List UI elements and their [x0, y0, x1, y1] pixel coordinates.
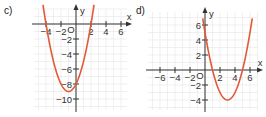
y-axis-label: y [209, 8, 214, 19]
chart-panel-c: −4−2246−2−4−6−8−10xyOc) [4, 4, 132, 112]
y-tick-label: 2 [196, 50, 201, 61]
y-tick-label: −4 [190, 95, 201, 106]
y-axis-arrow-icon [74, 4, 79, 10]
y-tick-label: −2 [61, 34, 72, 45]
panel-label: d) [136, 5, 145, 16]
x-tick-label: 6 [247, 72, 252, 83]
y-tick-label: −10 [56, 94, 72, 105]
x-axis-arrow-icon [257, 68, 263, 73]
x-tick-label: −6 [155, 72, 166, 83]
y-tick-label: −2 [190, 80, 201, 91]
x-tick-label: 4 [232, 72, 237, 83]
y-axis-arrow-icon [203, 7, 208, 13]
y-tick-label: −6 [61, 64, 72, 75]
x-axis-label: x [127, 11, 132, 22]
panel-label: c) [4, 5, 12, 16]
origin-label: O [196, 70, 203, 81]
x-tick-label: −4 [170, 72, 181, 83]
x-tick-label: 4 [103, 26, 108, 37]
grid [148, 12, 258, 110]
y-tick-label: 6 [196, 20, 201, 31]
origin-label: O [67, 24, 74, 35]
chart-panel-d: −6−4−2246642−2−4xyOd) [136, 5, 263, 112]
x-tick-label: 2 [217, 72, 222, 83]
chart-canvas: −4−2246−2−4−6−8−10xyOc) −6−4−2246642−2−4… [0, 0, 266, 117]
x-axis-arrow-icon [126, 22, 132, 27]
y-tick-label: 4 [196, 35, 201, 46]
y-tick-label: −4 [61, 49, 72, 60]
x-tick-label: 6 [118, 26, 123, 37]
y-axis-label: y [80, 5, 85, 16]
x-axis-label: x [258, 57, 263, 68]
